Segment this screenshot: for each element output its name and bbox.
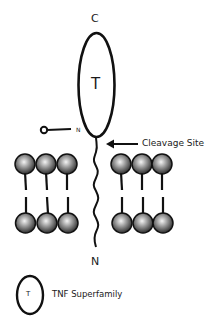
n-terminus-label: N xyxy=(91,256,99,267)
legend-label: TNF Superfamily xyxy=(52,290,122,299)
tnf-domain-label: T xyxy=(91,77,100,92)
cleavage-arrow-icon xyxy=(106,140,138,149)
diagram-canvas xyxy=(0,0,211,331)
cleavage-site-label: Cleavage Site xyxy=(142,139,204,148)
c-terminus-label: C xyxy=(91,13,99,24)
transmembrane-tail xyxy=(94,137,99,247)
small-ligand-icon xyxy=(41,127,71,133)
membrane-left xyxy=(15,154,78,233)
ligand-n-label: N xyxy=(76,127,81,133)
legend-symbol-letter: T xyxy=(26,291,30,298)
membrane-right xyxy=(111,154,173,233)
